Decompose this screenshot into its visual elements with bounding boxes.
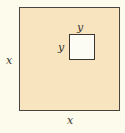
inner-square-cutout <box>69 34 95 60</box>
outer-side-label-left: x <box>6 55 12 66</box>
inner-side-label-top: y <box>77 22 83 33</box>
inner-side-label-left: y <box>58 42 64 53</box>
outer-side-label-bottom: x <box>67 115 73 126</box>
